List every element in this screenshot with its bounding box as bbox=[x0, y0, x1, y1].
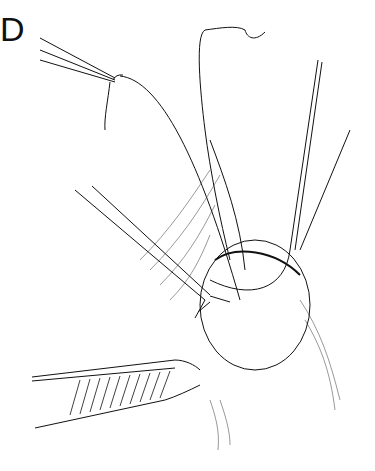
surgical-illustration bbox=[0, 0, 375, 471]
suture-thread-icon bbox=[120, 76, 240, 300]
toothed-forceps-icon bbox=[32, 360, 200, 428]
suture-forceps-icon bbox=[40, 38, 123, 82]
forked-probe-icon bbox=[75, 186, 230, 318]
left-retractor-icon bbox=[199, 27, 245, 260]
